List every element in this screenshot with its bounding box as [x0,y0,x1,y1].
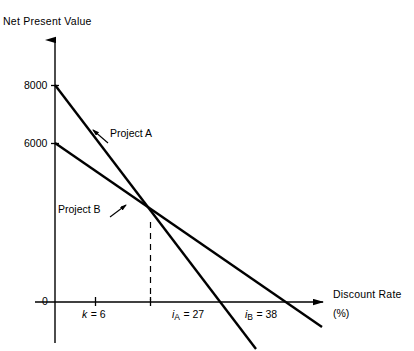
y-tick-label-8000: 8000 [24,79,47,91]
x-tick-label-ia: iA = 27 [172,308,204,323]
x-tick-value-ia: 27 [193,308,205,320]
x-tick-label-k: k = 6 [82,308,106,323]
x-tick-eq-ib: = [256,308,262,320]
x-tick-value-ib: 38 [266,308,278,320]
project-b-leader-icon [110,205,126,217]
series-label-project-b: Project B [58,203,101,215]
npv-profile-chart: Net Present Value 8000 6000 0 Project A … [0,0,414,351]
origin-label: 0 [42,295,48,307]
x-tick-label-ib: iB = 38 [245,308,277,323]
x-axis-unit: (%) [333,307,349,319]
series-label-project-a: Project A [110,127,152,139]
y-axis-title: Net Present Value [3,15,92,27]
x-tick-value-k: 6 [100,308,106,320]
x-axis-title: Discount Rate [333,288,402,300]
y-tick-label-6000: 6000 [24,137,47,149]
x-tick-eq-ia: = [183,308,189,320]
x-tick-eq-k: = [91,308,97,320]
